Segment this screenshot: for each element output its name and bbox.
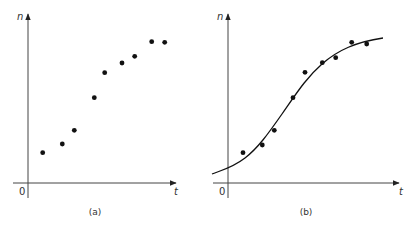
figure: n t 0 (a) n t 0 (b) (0, 0, 409, 228)
data-point (349, 40, 354, 45)
data-point (132, 54, 137, 59)
panel-a: n t 0 (a) (13, 11, 179, 217)
fitted-curve (212, 38, 383, 174)
panel-b: n t 0 (b) (212, 11, 404, 217)
data-point (102, 70, 107, 75)
data-point (149, 39, 154, 44)
data-points (40, 39, 167, 155)
panel-label: (b) (300, 207, 313, 217)
data-point (72, 128, 77, 133)
y-axis-label: n (17, 11, 23, 22)
x-axis-label: t (399, 186, 404, 197)
x-axis-label: t (174, 186, 179, 197)
data-point (260, 143, 265, 148)
data-points (241, 40, 370, 155)
data-point (92, 95, 97, 100)
origin-label: 0 (219, 186, 225, 197)
data-point (162, 40, 167, 45)
data-point (120, 61, 125, 66)
origin-label: 0 (19, 186, 25, 197)
data-point (40, 150, 45, 155)
data-point (60, 142, 65, 147)
data-point (364, 42, 369, 47)
panel-label: (a) (89, 207, 102, 217)
data-point (272, 128, 277, 133)
data-point (320, 60, 325, 65)
data-point (333, 55, 338, 60)
y-axis-label: n (217, 11, 223, 22)
data-point (303, 70, 308, 75)
data-point (291, 95, 296, 100)
data-point (241, 150, 246, 155)
